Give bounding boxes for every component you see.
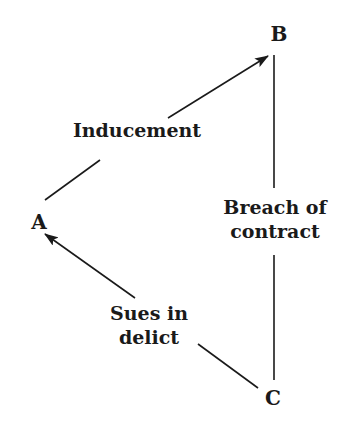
breach-line-2: contract	[223, 219, 326, 243]
edge-c-a-lower	[198, 344, 258, 388]
breach-line-1: Breach of	[223, 195, 326, 219]
node-c: C	[265, 388, 281, 408]
legal-relationship-diagram: A B C Inducement Breach of contract Sues…	[0, 0, 347, 435]
edge-c-a-upper	[45, 234, 135, 298]
sues-line-1: Sues in	[110, 301, 188, 325]
node-a: A	[31, 212, 47, 232]
edge-label-sues-in-delict: Sues in delict	[110, 301, 188, 349]
node-b: B	[271, 24, 288, 44]
inducement-text: Inducement	[73, 118, 201, 142]
edge-a-b-lower	[45, 160, 100, 200]
edge-label-inducement: Inducement	[73, 118, 201, 142]
sues-line-2: delict	[110, 325, 188, 349]
edge-label-breach-of-contract: Breach of contract	[223, 195, 326, 243]
edge-a-b-upper	[168, 56, 268, 118]
